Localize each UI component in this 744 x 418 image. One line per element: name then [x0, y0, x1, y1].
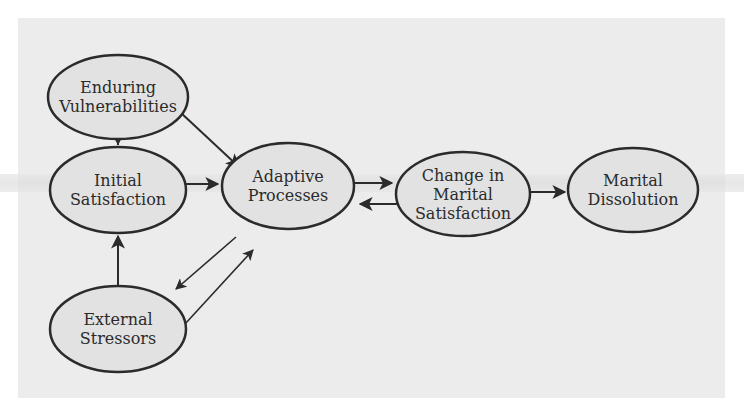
label-line: Processes: [248, 186, 329, 205]
label-enduring-vulnerabilities: Enduring Vulnerabilities: [48, 60, 188, 134]
label-line: Satisfaction: [70, 190, 166, 209]
label-line: Enduring: [80, 78, 156, 97]
label-line: Marital: [433, 185, 493, 204]
label-line: Change in: [422, 166, 505, 185]
label-line: Satisfaction: [415, 204, 511, 223]
edge-external-to-adaptive: [185, 250, 253, 324]
label-line: Dissolution: [588, 190, 679, 209]
label-line: Initial: [94, 171, 142, 190]
label-change-in-marital-satisfaction: Change in Marital Satisfaction: [396, 156, 530, 232]
label-line: Stressors: [80, 329, 156, 348]
label-line: External: [83, 310, 152, 329]
label-marital-dissolution: Marital Dissolution: [568, 153, 698, 227]
label-external-stressors: External Stressors: [50, 292, 186, 366]
label-line: Vulnerabilities: [59, 97, 177, 116]
label-initial-satisfaction: Initial Satisfaction: [50, 153, 186, 227]
edge-adaptive-to-external: [176, 237, 236, 289]
label-line: Marital: [603, 171, 663, 190]
label-line: Adaptive: [252, 167, 324, 186]
label-adaptive-processes: Adaptive Processes: [222, 149, 354, 223]
